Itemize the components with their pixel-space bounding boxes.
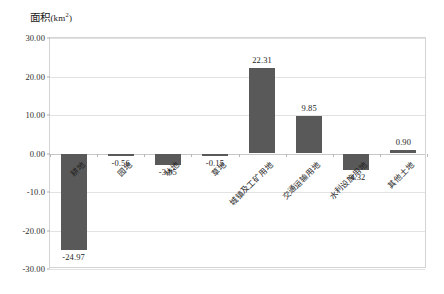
- bar[interactable]: [296, 116, 322, 154]
- bar-chart: 面积(km2) 30.0020.0010.000.00-10.0-20.00-3…: [0, 0, 444, 294]
- y-axis-unit: (km2): [50, 13, 72, 23]
- x-axis-tick-mark: [427, 154, 428, 157]
- bar-slot: 22.31: [239, 38, 286, 267]
- bar-slot: -0.15: [191, 38, 238, 267]
- bar[interactable]: [202, 154, 228, 156]
- y-axis-tick-label: 30.00: [25, 33, 45, 43]
- bar-slot: -0.56: [97, 38, 144, 267]
- gridline: [50, 269, 425, 270]
- bar-value-label: -24.97: [62, 252, 85, 262]
- y-axis-tick-mark: [47, 269, 50, 270]
- y-axis-tick-label: 10.00: [25, 110, 45, 120]
- bar[interactable]: [390, 150, 416, 153]
- bar-slot: 0.90: [380, 38, 427, 267]
- bar-value-label: 9.85: [302, 103, 317, 113]
- y-axis-tick-label: -20.00: [22, 226, 45, 236]
- bar-value-label: 22.31: [252, 55, 272, 65]
- bar[interactable]: [249, 68, 275, 154]
- bar-slot: 9.85: [286, 38, 333, 267]
- y-axis-tick-label: 0.00: [30, 149, 45, 159]
- y-axis-title-text: 面积: [30, 12, 50, 23]
- y-axis-tick-label: 20.00: [25, 72, 45, 82]
- y-axis-tick-label: -10.0: [27, 187, 45, 197]
- plot-area: 30.0020.0010.000.00-10.0-20.00-30.00-24.…: [49, 37, 426, 268]
- bar-slot: -3.05: [144, 38, 191, 267]
- bar-slot: -24.97: [50, 38, 97, 267]
- y-axis-title: 面积(km2): [30, 9, 72, 24]
- bar-slot: -4.32: [333, 38, 380, 267]
- bar-value-label: 0.90: [396, 137, 411, 147]
- bar[interactable]: [108, 154, 134, 156]
- y-axis-tick-label: -30.00: [22, 264, 45, 274]
